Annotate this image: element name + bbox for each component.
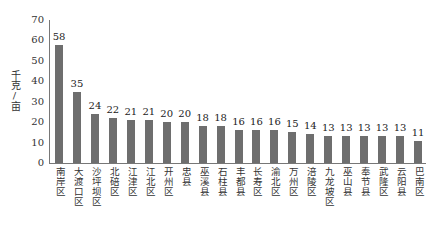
category-label: 沙坪坝区 (89, 167, 101, 207)
y-tick-label: 40 (24, 76, 44, 86)
category-label: 江津区 (125, 167, 137, 197)
x-axis-line (49, 163, 426, 164)
y-axis-line (49, 20, 50, 164)
category-label: 开州区 (161, 167, 173, 197)
bar (91, 114, 99, 163)
y-tick-label: 50 (24, 56, 44, 66)
category-label: 石柱县 (215, 167, 227, 197)
category-label: 巴南区 (412, 167, 424, 197)
bar (127, 120, 135, 163)
y-axis-label: 千克/亩 (6, 70, 20, 111)
bar (109, 118, 117, 163)
bar-value-label: 35 (67, 78, 87, 89)
category-label: 巫溪县 (197, 167, 209, 197)
bar (73, 92, 81, 164)
bar (55, 45, 63, 163)
category-label: 云阳县 (394, 167, 406, 197)
category-label: 江北区 (143, 167, 155, 197)
category-label: 巫山县 (340, 167, 352, 197)
category-label: 涪陵区 (304, 167, 316, 197)
bar (217, 126, 225, 163)
bar (306, 134, 314, 163)
bar-value-label: 58 (49, 31, 69, 42)
bar (396, 136, 404, 163)
category-label: 武隆区 (376, 167, 388, 197)
bar (288, 132, 296, 163)
bar (252, 130, 260, 163)
category-label: 万州区 (286, 167, 298, 197)
bar (145, 120, 153, 163)
y-tick-label: 0 (24, 158, 44, 168)
bar (360, 136, 368, 163)
bar (163, 122, 171, 163)
bar (324, 136, 332, 163)
y-tick-label: 10 (24, 138, 44, 148)
category-label: 长寿区 (250, 167, 262, 197)
y-tick-label: 30 (24, 97, 44, 107)
bar (270, 130, 278, 163)
bar (414, 141, 422, 163)
category-label: 九龙坡区 (322, 167, 334, 207)
bar (235, 130, 243, 163)
bar (342, 136, 350, 163)
category-label: 丰都县 (233, 167, 245, 197)
category-label: 奉节县 (358, 167, 370, 197)
bar (199, 126, 207, 163)
bar-value-label: 11 (408, 127, 428, 138)
bar (181, 122, 189, 163)
category-label: 大渡口区 (71, 167, 83, 207)
category-label: 北碚区 (107, 167, 119, 197)
category-label: 南岸区 (53, 167, 65, 197)
figure-caption-faded (60, 212, 390, 224)
bar (378, 136, 386, 163)
y-tick-label: 70 (24, 15, 44, 25)
y-tick-label: 20 (24, 117, 44, 127)
y-tick-label: 60 (24, 35, 44, 45)
bar-chart: 千克/亩 010203040506070 58南岸区35大渡口区24沙坪坝区22… (0, 0, 439, 229)
category-label: 渝北区 (268, 167, 280, 197)
category-label: 忠县 (179, 167, 191, 187)
